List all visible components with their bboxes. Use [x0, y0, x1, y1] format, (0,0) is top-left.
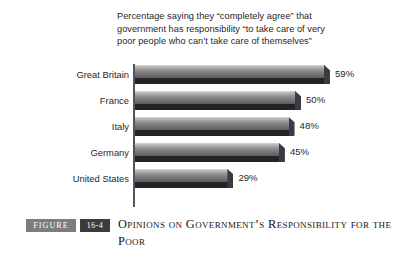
figure-number-badge: 16-4 — [80, 219, 110, 232]
header-line-2: government has responsibility “to take c… — [117, 23, 392, 36]
header-line-3: poor people who can’t take care of thems… — [117, 35, 392, 48]
chart-row: United States 29% — [0, 169, 420, 195]
bar-france — [135, 91, 296, 110]
bar-italy — [135, 117, 290, 136]
bar-value-label: 50% — [306, 91, 325, 108]
chart-row: Germany 45% — [0, 143, 420, 169]
bar-end-cap — [324, 65, 330, 84]
bar-shadow — [135, 182, 228, 188]
figure-title: Opinions on Government’s Responsibility … — [118, 216, 408, 250]
bar-united-states — [135, 169, 228, 188]
bar-germany — [135, 143, 280, 162]
header-line-1: Percentage saying they “completely agree… — [117, 10, 392, 23]
bar-end-cap — [289, 117, 295, 136]
category-label: United States — [73, 169, 129, 188]
bar-end-cap — [279, 143, 285, 162]
figure-caption: FIGURE 16-4 Opinions on Government’s Res… — [0, 216, 420, 262]
bar-end-cap — [295, 91, 301, 110]
bar-value-label: 45% — [290, 143, 309, 160]
category-label: Italy — [112, 117, 129, 136]
bar-fill — [135, 117, 290, 130]
bar-fill — [135, 169, 228, 182]
category-label: Great Britain — [76, 65, 129, 84]
bar-value-label: 48% — [300, 117, 319, 134]
bar-great-britain — [135, 65, 325, 84]
chart-row: Italy 48% — [0, 117, 420, 143]
figure-label-badge: FIGURE — [26, 219, 76, 232]
bar-shadow — [135, 156, 280, 162]
bar-chart: Great Britain 59% France 50% Italy 48% G… — [0, 62, 420, 207]
category-label: Germany — [90, 143, 129, 162]
bar-fill — [135, 91, 296, 104]
bar-fill — [135, 65, 325, 78]
category-label: France — [100, 91, 129, 110]
bar-shadow — [135, 104, 296, 110]
chart-header-text: Percentage saying they “completely agree… — [117, 10, 392, 48]
chart-row: France 50% — [0, 91, 420, 117]
chart-row: Great Britain 59% — [0, 65, 420, 91]
bar-value-label: 29% — [238, 169, 257, 186]
bar-fill — [135, 143, 280, 156]
bar-value-label: 59% — [335, 65, 354, 82]
bar-shadow — [135, 130, 290, 136]
bar-shadow — [135, 78, 325, 84]
bar-end-cap — [227, 169, 233, 188]
